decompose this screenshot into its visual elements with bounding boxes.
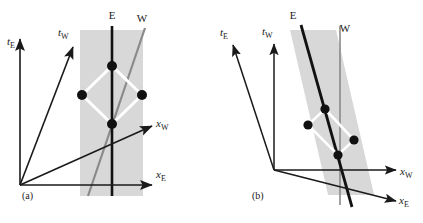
panel-b-label-worldline-e: E [290,9,297,21]
panel-b-axis-te [233,45,274,170]
panel-b-label-te: tE [220,26,228,41]
panel-b-label-xw: xW [399,165,413,180]
panel-b-event-dot [349,135,358,144]
panel-b-event-dot [320,104,329,113]
panel-b-event-dot [333,150,342,159]
figure-container: tE tW xE xW E W (a) [0,0,423,223]
panel-b-caption: (b) [252,190,264,202]
panel-b: tE tW xW xE E W (b) [0,0,423,223]
panel-b-label-worldline-w: W [340,22,351,34]
panel-b-label-tw: tW [262,25,273,40]
panel-b-label-xe: xE [398,194,409,209]
panel-b-event-dot [303,120,312,129]
